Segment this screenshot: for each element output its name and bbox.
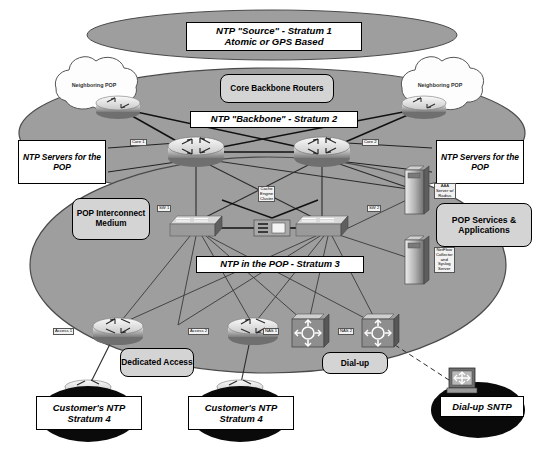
dedicated-access-label: Dedicated Access (120, 348, 194, 377)
ntp-servers-left-callout: NTP Servers for the POP (18, 140, 106, 184)
access-router-1-icon[interactable] (93, 318, 143, 345)
netflow-server-tag: NetFlow Collector and Syslog Server (434, 247, 455, 273)
dialup-sntp-label: Dial-up SNTP (440, 396, 524, 417)
neighboring-pop-left-label: Neighboring POP (58, 82, 130, 88)
customer-ntp-left-label: Customer's NTP Stratum 4 (36, 396, 142, 430)
stratum3-banner: NTP in the POP - Stratum 3 (196, 256, 364, 273)
core-router-1-tag: Core 1 (130, 139, 147, 146)
nas-1-tag: NAS 1 (263, 328, 279, 335)
nas-2-tag: NAS 2 (338, 328, 354, 335)
core-router-2-tag: Core 2 (362, 139, 379, 146)
core-router-1-icon[interactable] (168, 137, 224, 167)
dialup-label: Dial-up (322, 352, 388, 374)
nas-1-icon[interactable] (292, 314, 329, 347)
cache-engine-cluster-icon[interactable] (254, 220, 290, 236)
neighbor-router-right-icon (402, 96, 446, 119)
aaa-server-tag: AAA Server w/ Radius (434, 183, 456, 199)
cache-engine-cluster-tag: Cache Engine Cluster (258, 186, 275, 202)
core-backbone-routers-label: Core Backbone Routers (220, 74, 334, 103)
neighbor-router-left-icon (96, 96, 140, 119)
stratum1-banner: NTP "Source" - Stratum 1 Atomic or GPS B… (186, 22, 362, 51)
netflow-server-icon[interactable] (405, 236, 429, 284)
access-router-1-tag: Access 1 (53, 328, 74, 335)
pop-services-label: POP Services & Applications (436, 203, 532, 247)
switch-2-tag: SW 2 (367, 205, 381, 212)
switch-1-tag: SW 1 (157, 205, 171, 212)
nas-2-icon[interactable] (362, 314, 399, 347)
access-router-2-tag: Access 2 (188, 328, 209, 335)
core-router-2-icon[interactable] (294, 137, 350, 167)
network-diagram: NTP "Source" - Stratum 1 Atomic or GPS B… (0, 0, 540, 460)
aaa-server-icon[interactable] (405, 166, 429, 214)
ntp-servers-right-callout: NTP Servers for the POP (436, 140, 524, 184)
stratum2-banner: NTP "Backbone" - Stratum 2 (190, 111, 358, 128)
customer-ntp-right-label: Customer's NTP Stratum 4 (188, 396, 294, 430)
neighboring-pop-right-label: Neighboring POP (404, 82, 476, 88)
dialup-workstation-icon (447, 368, 477, 393)
switch-1-icon[interactable] (170, 216, 222, 236)
pop-interconnect-label: POP Interconnect Medium (72, 198, 150, 240)
dialup-link (395, 345, 452, 382)
switch-2-icon[interactable] (296, 216, 348, 236)
